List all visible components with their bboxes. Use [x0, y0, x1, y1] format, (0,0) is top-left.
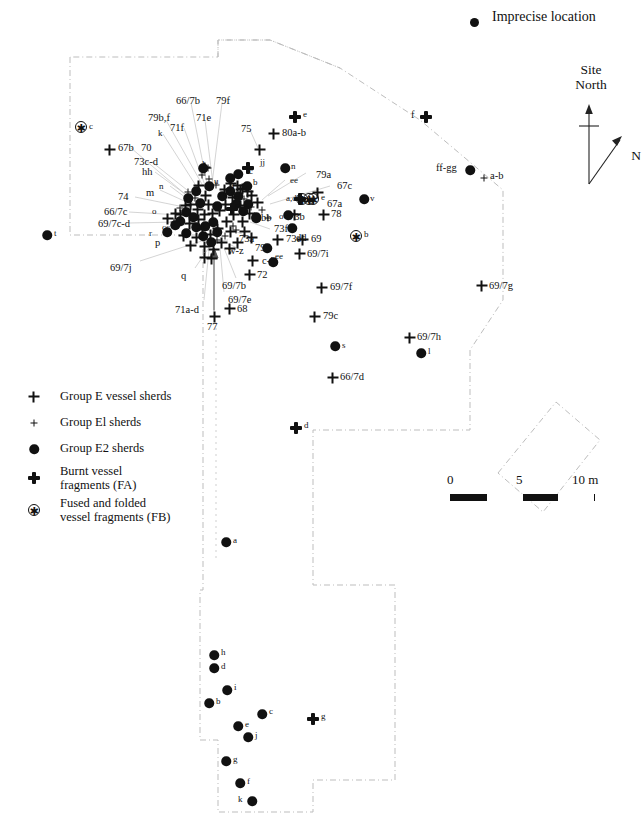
- map-point-label: w-z: [228, 246, 244, 257]
- map-point-label: v: [370, 194, 375, 203]
- site-north-label-line2: North: [543, 77, 639, 92]
- legend-label-burnt-fa-line1: Burnt vessel: [60, 464, 122, 478]
- map-point-label: q: [181, 271, 186, 282]
- map-point-label: m: [146, 188, 154, 199]
- map-point-label: 79c: [323, 311, 338, 322]
- map-point-label: n: [291, 162, 296, 171]
- point-marker-plus-small: [185, 189, 192, 196]
- map-point-label: c: [89, 122, 93, 131]
- point-marker-plus-large: [295, 249, 306, 260]
- map-point-label: jj: [260, 158, 265, 167]
- map-point-label: 79b,f: [148, 113, 170, 124]
- map-point-label: 66/7d: [340, 372, 364, 383]
- map-point-label: 72: [257, 270, 268, 281]
- map-point-label: 71e: [196, 113, 211, 124]
- map-point-label: 75: [241, 124, 252, 135]
- point-marker-plus-small: [171, 219, 178, 226]
- point-marker-plus-small: [177, 205, 184, 212]
- point-marker-dot: [247, 796, 257, 806]
- point-marker-dot: [204, 698, 214, 708]
- map-point-label: c: [249, 167, 253, 176]
- scale-tick-0: 0: [447, 472, 454, 488]
- point-marker-dot: [233, 721, 243, 731]
- point-marker-plus-small: [192, 195, 199, 202]
- distribution-map: ✱✱✱ ✱✱ 66/7b79f79b,f71e71fk7580a-bec67b7…: [0, 0, 642, 826]
- point-marker-dot: [221, 756, 231, 766]
- map-point-label: 69/7i: [307, 249, 329, 260]
- legend-label-burnt-fa-line2: fragments (FA): [60, 477, 136, 491]
- map-point-label: s: [342, 341, 346, 350]
- point-marker-plus-small: [481, 175, 488, 182]
- map-point-label: b: [364, 230, 369, 239]
- legend-item-group-e2: Group E2 sherds: [26, 436, 251, 462]
- map-point-label: o: [279, 212, 284, 221]
- point-marker-dot: [465, 165, 475, 175]
- point-marker-dot: [257, 709, 267, 719]
- map-point-label: d: [304, 421, 309, 430]
- legend-item-group-e1: Group El sherds: [26, 410, 251, 436]
- north-arrow: Site North N: [543, 62, 639, 194]
- map-point-label: bb: [261, 213, 272, 224]
- point-marker-plus-large: [317, 283, 328, 294]
- point-marker-plus-large: [207, 254, 218, 265]
- map-point-label: o: [152, 207, 157, 216]
- map-point-label: cc: [162, 223, 170, 232]
- point-marker-fused-fb: ✱: [350, 230, 362, 242]
- legend-label-group-e2: Group E2 sherds: [60, 442, 144, 456]
- map-point-label: t: [54, 229, 57, 238]
- map-point-label: 73a: [239, 234, 254, 245]
- point-marker-plus-large: [220, 185, 231, 196]
- point-marker-plus-large: [255, 145, 266, 156]
- imprecise-location-label: Imprecise location: [492, 9, 596, 25]
- map-point-label: 69/7c-d: [98, 219, 130, 230]
- point-marker-burnt-fa: [420, 111, 432, 123]
- point-marker-dot: [235, 778, 245, 788]
- legend: Group E vessel sherds Group El sherds Gr…: [26, 384, 251, 526]
- map-point-label: 69/7h: [417, 332, 441, 343]
- point-marker-fused-fb: ✱: [307, 193, 319, 205]
- map-point-label: n: [159, 182, 164, 191]
- map-point-label: 67c: [337, 181, 352, 192]
- point-marker-plus-large: [319, 210, 330, 221]
- map-point-label: u: [214, 177, 219, 186]
- point-marker-dot: [221, 537, 231, 547]
- point-marker-plus-large: [248, 256, 259, 267]
- map-point-label: b: [253, 178, 258, 187]
- map-point-label: e: [321, 193, 325, 202]
- legend-item-burnt-fa: Burnt vessel fragments (FA): [26, 462, 251, 494]
- plus-small-icon: [31, 420, 38, 427]
- point-marker-plus-large: [269, 129, 280, 140]
- point-marker-burnt-fa: [289, 111, 301, 123]
- point-marker-plus-small: [205, 165, 212, 172]
- point-marker-dot: [222, 685, 232, 695]
- point-marker-plus-small: [241, 196, 248, 203]
- point-marker-plus-large: [105, 145, 116, 156]
- map-point-label: j: [255, 731, 258, 740]
- point-marker-plus-small: [214, 237, 221, 244]
- map-point-label: 73b: [289, 212, 305, 223]
- plus-large-icon: [29, 392, 40, 403]
- map-point-label: g: [233, 755, 238, 764]
- map-point-label: hh: [142, 167, 153, 178]
- map-point-label: e: [245, 720, 249, 729]
- map-point-label: r: [149, 229, 152, 238]
- map-point-label: 69/7b: [222, 281, 246, 292]
- map-point-label: h: [221, 648, 226, 657]
- map-point-label: i: [234, 683, 237, 692]
- map-point-label: f: [411, 110, 415, 121]
- legend-item-fused-fb: ✱ Fused and folded vessel fragments (FB): [26, 494, 251, 526]
- point-marker-dot: [243, 732, 253, 742]
- legend-item-group-e: Group E vessel sherds: [26, 384, 251, 410]
- point-marker-plus-large: [477, 281, 488, 292]
- point-marker-plus-small: [222, 233, 229, 240]
- filled-circle-icon: [29, 444, 39, 454]
- map-point-label: l: [202, 160, 205, 169]
- scale-segment-3: [523, 494, 559, 501]
- point-marker-fused-fb: ✱: [75, 121, 87, 133]
- point-marker-plus-large: [310, 312, 321, 323]
- map-point-label: 66/7b: [176, 96, 200, 107]
- imprecise-location-dot-icon: [470, 18, 479, 27]
- point-marker-plus-large: [179, 231, 190, 242]
- point-marker-burnt-fa: [290, 422, 302, 434]
- legend-label-fused-fb: Fused and folded vessel fragments (FB): [60, 497, 170, 524]
